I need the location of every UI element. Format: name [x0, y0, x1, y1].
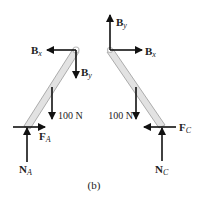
left-member: Bx By 100 N FA NA [13, 44, 92, 177]
figure-caption: (b) [88, 179, 101, 192]
right-bx-label: Bx [145, 45, 156, 59]
left-na-label: NA [19, 163, 32, 177]
right-by-label: By [116, 16, 127, 30]
right-weight-label: 100 N [108, 110, 133, 121]
left-weight-label: 100 N [58, 110, 83, 121]
right-member: By Bx 100 N FC NC [107, 15, 192, 177]
right-fc-label: FC [179, 121, 192, 135]
left-fa-label: FA [39, 130, 51, 144]
left-by-label: By [81, 66, 92, 80]
right-nc-label: NC [155, 163, 169, 177]
free-body-diagram: Bx By 100 N FA NA By Bx [0, 0, 200, 202]
left-bx-label: Bx [31, 44, 42, 58]
